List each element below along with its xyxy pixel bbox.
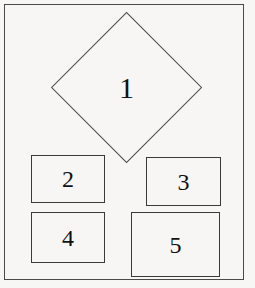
node-shape-rectangle-2[interactable] <box>31 155 105 203</box>
diagram-canvas: 1 2 3 4 5 <box>0 0 255 288</box>
node-shape-rectangle-5[interactable] <box>131 212 220 277</box>
node-shape-rectangle-3[interactable] <box>146 157 221 206</box>
node-shape-rectangle-4[interactable] <box>31 212 105 263</box>
